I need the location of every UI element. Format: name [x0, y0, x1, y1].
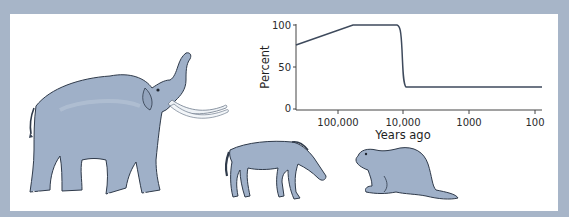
x-tick-100: 100: [525, 117, 544, 128]
x-tick-100000: 100,000: [317, 117, 358, 128]
y-tick-0: 0: [285, 103, 291, 114]
percent-over-time-chart: 100 50 0 100,000 10,000 1000 100 Years a…: [0, 0, 569, 217]
figure-frame: 100 50 0 100,000 10,000 1000 100 Years a…: [0, 0, 569, 217]
x-axis-title: Years ago: [374, 128, 430, 142]
y-tick-50: 50: [278, 62, 291, 73]
y-axis-title: Percent: [258, 45, 272, 89]
y-tick-100: 100: [272, 20, 291, 31]
x-tick-10000: 10,000: [386, 117, 421, 128]
x-tick-1000: 1000: [456, 117, 481, 128]
percent-line: [296, 25, 542, 87]
